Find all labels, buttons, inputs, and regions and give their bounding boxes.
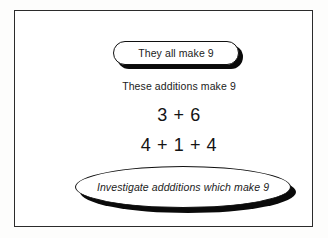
sum-expression-2: 4 + 1 + 4 <box>15 135 328 156</box>
callout-pill: They all make 9 <box>113 41 243 69</box>
task-ellipse: Investigate addditions which make 9 <box>75 166 297 214</box>
diagram-frame: They all make 9 These additions make 9 3… <box>14 10 313 227</box>
heading-text: These additions make 9 <box>15 80 328 92</box>
task-ellipse-label: Investigate addditions which make 9 <box>97 182 269 193</box>
diagram-canvas: They all make 9 These additions make 9 3… <box>0 0 328 238</box>
callout-pill-body: They all make 9 <box>113 41 239 65</box>
sum-expression-1: 3 + 6 <box>15 105 328 126</box>
callout-pill-label: They all make 9 <box>138 48 214 59</box>
task-ellipse-body: Investigate addditions which make 9 <box>75 166 291 208</box>
